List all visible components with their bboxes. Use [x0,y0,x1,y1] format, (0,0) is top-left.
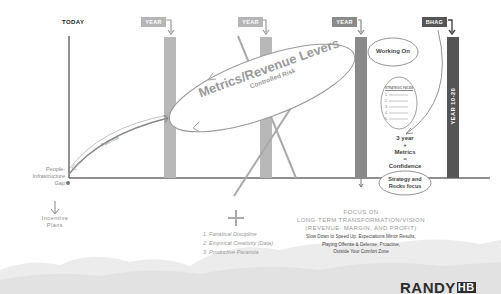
brand-name: RANDY [400,279,456,294]
year3-bar [355,37,367,178]
gap-line: Gap [10,180,65,187]
focus-sub-line: Slow Down to Speed Up, Expectations Mirr… [290,233,432,241]
year1-tag: YEAR 1 [141,17,166,27]
equation-line: = [380,156,430,163]
focus-sub-line: Playing Offense & Defense, Proactive, [290,241,432,249]
focus-sub-line: Outside Your Comfort Zone [290,248,432,256]
discipline-item: 1. Fanatical Discipline [203,230,273,239]
strategic-header: STRATEGIC FACES [385,86,413,91]
strategy-rocks-label: Strategy and Rocks focus [380,176,430,190]
gap-point [66,181,70,185]
year2-tag: YEAR 2 [238,17,263,27]
gap-line: Infrastructure [10,173,65,180]
brand-mark-icon: HB [457,282,476,293]
today-label: TODAY [62,19,84,25]
discipline-item: 2. Empirical Creativity (Data) [203,239,273,248]
brand-logo: RANDYHB [400,279,476,294]
discipline-item: 3. Productive Paranoia [203,248,273,257]
equation-line: Metrics [380,149,430,156]
strategic-list: 1. 2. 3. 4. 5. [385,92,388,122]
year3-tag: YEAR 3 [332,17,357,27]
potential-curve [69,118,168,174]
bhag-tag: BHAG [422,17,447,27]
focus-subtext: Slow Down to Speed Up, Expectations Mirr… [290,233,432,256]
gap-line: People- [10,166,65,173]
disciplines-list: 1. Fanatical Discipline 2. Empirical Cre… [203,230,273,257]
equation-line: Confidence [380,163,430,170]
focus-line: (REVENUE, MARGIN, AND PROFIT) [290,224,432,232]
focus-line: LONG-TERM TRANSFORMATION/VISION [290,216,432,224]
incentive-plans-label: Incentive Plans [30,215,80,228]
working-on-label: Working On [373,48,413,54]
strategy-line: Rocks focus [380,183,430,190]
focus-title: FOCUS ON LONG-TERM TRANSFORMATION/VISION… [290,208,432,232]
focus-line: FOCUS ON [290,208,432,216]
list-number: 5. [385,116,388,122]
confidence-equation: 3 year + Metrics = Confidence [380,135,430,170]
people-gap-label: People- Infrastructure Gap [10,166,65,186]
equation-line: + [380,142,430,149]
strategy-line: Strategy and [380,176,430,183]
equation-line: 3 year [380,135,430,142]
incentive-line: Plans [30,222,80,229]
bhag-bar-label: YEAR 10-20 [450,78,456,134]
